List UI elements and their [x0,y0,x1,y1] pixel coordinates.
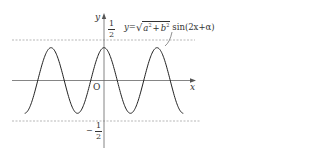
upper-tick-label: 1 2 [108,20,115,39]
eq-suffix: sin(2x+α) [172,22,214,32]
x-axis-label: x [190,83,195,92]
equation-label: y= √ a2+b2 sin(2x+α) [124,21,215,33]
y-axis-label: y [95,13,100,22]
sqrt-expression: √ a2+b2 [136,21,170,33]
plus-sign: + [153,23,160,33]
exp-a: 2 [148,22,151,28]
sqrt-body: a2+b2 [142,21,170,33]
tick-numerator: 1 [109,20,114,28]
tick-numerator: 1 [96,122,101,130]
origin-label: O [93,83,100,92]
eq-prefix: y= [124,22,136,32]
annotation-leader-line [165,32,172,46]
y-axis-arrow-icon [102,13,106,19]
tick-denominator: 2 [96,133,101,141]
tick-denominator: 2 [109,31,114,39]
lower-tick-sign: − [86,127,93,135]
exp-b: 2 [166,22,169,28]
lower-tick-label: 1 2 [95,122,102,141]
